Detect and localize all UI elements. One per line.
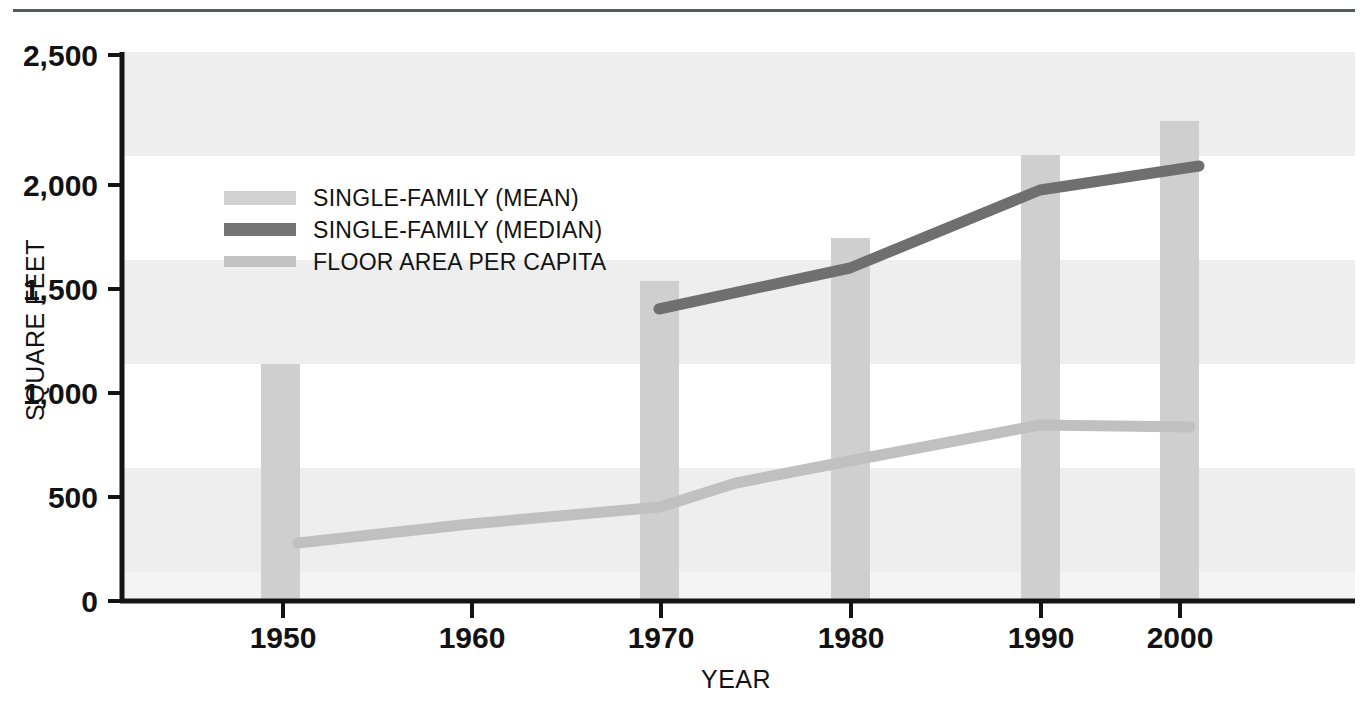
y-tick-label-2000: 2,000 [23, 169, 98, 202]
x-tick-label-1990: 1990 [1008, 621, 1075, 654]
legend-swatch-mean [224, 191, 296, 205]
chart-legend: SINGLE-FAMILY (MEAN) SINGLE-FAMILY (MEDI… [224, 185, 607, 275]
legend-label-per-capita: FLOOR AREA PER CAPITA [313, 249, 607, 275]
x-tick-label-2000: 2000 [1147, 621, 1214, 654]
legend-label-mean: SINGLE-FAMILY (MEAN) [313, 185, 579, 211]
x-tick-label-1950: 1950 [250, 621, 317, 654]
x-tick-label-1980: 1980 [818, 621, 885, 654]
bar-1990 [1021, 155, 1060, 600]
y-tick-label-0: 0 [81, 585, 98, 618]
bar-1950 [261, 364, 300, 600]
bar-1980 [831, 238, 870, 600]
x-tick-marks [283, 601, 1180, 618]
bar-1970 [640, 281, 679, 600]
chart-figure: 2,500 2,000 1,500 1,000 500 0 1950 1960 … [0, 0, 1363, 706]
legend-label-median: SINGLE-FAMILY (MEDIAN) [313, 217, 602, 243]
legend-swatch-per-capita [224, 256, 296, 267]
x-tick-labels: 1950 1960 1970 1980 1990 2000 [250, 621, 1214, 654]
x-tick-label-1970: 1970 [628, 621, 695, 654]
y-axis-title: SQUARE FEET [21, 239, 49, 421]
figure-caption [8, 688, 1355, 704]
bar-2000 [1160, 121, 1199, 600]
y-tick-label-500: 500 [48, 481, 98, 514]
floor-area-chart: 2,500 2,000 1,500 1,000 500 0 1950 1960 … [0, 0, 1363, 706]
x-tick-label-1960: 1960 [439, 621, 506, 654]
y-tick-label-2500: 2,500 [23, 39, 98, 72]
legend-swatch-median [224, 223, 296, 236]
